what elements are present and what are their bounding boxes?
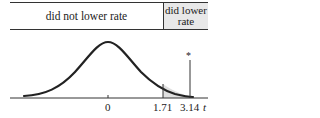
label-t: t bbox=[203, 101, 206, 113]
label-critical: 1.71 bbox=[153, 101, 172, 113]
observed-marker-star: * bbox=[186, 50, 191, 61]
label-zero: 0 bbox=[105, 101, 111, 113]
label-observed: 3.14 bbox=[180, 101, 199, 113]
